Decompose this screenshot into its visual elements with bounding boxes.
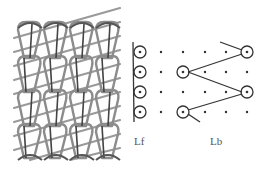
lapping-notation-diagram: Lf Lb <box>125 0 266 177</box>
fabric-structure-image <box>0 0 130 177</box>
back-bar-label: Lb <box>210 135 222 147</box>
knit-fabric-diagram <box>0 0 130 177</box>
front-bar-label: Lf <box>134 135 144 147</box>
lapping-notation-svg <box>125 0 266 177</box>
